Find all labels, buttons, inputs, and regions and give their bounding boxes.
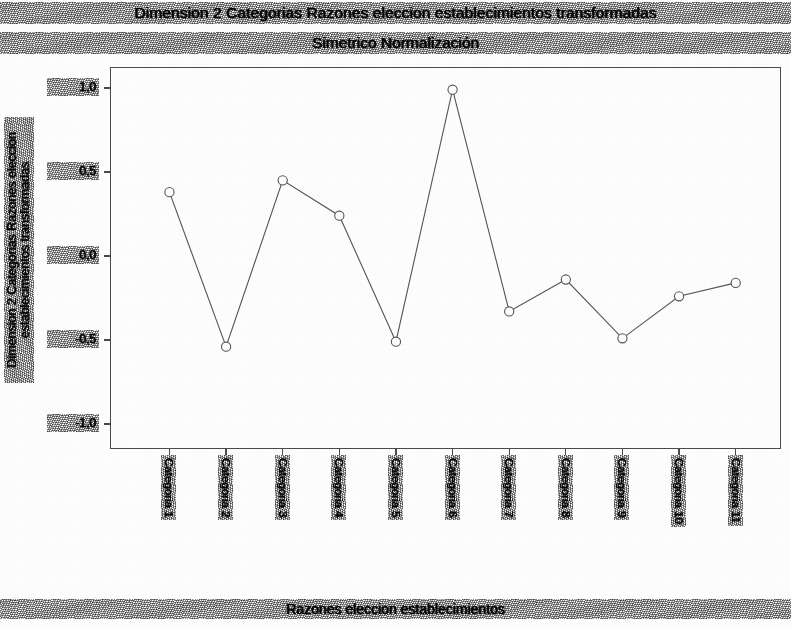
y-axis-tick-label: 1,0 [50,80,96,94]
data-point-marker [448,85,457,94]
data-point-marker [731,278,740,287]
y-axis-tick-label: -0,5 [50,332,96,346]
x-axis-tick-mark [509,448,510,455]
x-axis-tick-label: Categoria 2 [220,458,231,517]
x-axis-tick-label: Categoria 7 [503,458,514,517]
x-axis-tick-label: Categoria 10 [673,458,684,524]
x-axis-tick-mark [735,448,736,455]
y-axis-tick-label: 0,5 [50,164,96,178]
x-axis-tick-label: Categoria 1 [163,458,174,517]
data-point-marker [505,307,514,316]
x-axis-tick-mark [565,448,566,455]
x-axis-tick-mark [339,448,340,455]
data-point-marker [561,275,570,284]
x-axis-tick-mark [622,448,623,455]
data-point-marker [391,337,400,346]
x-axis-tick-label: Categoria 3 [277,458,288,517]
x-axis-tick-label: Categoria 5 [390,458,401,517]
chart-subtitle: Simetrico Normalización [0,34,791,52]
x-axis-tick-label: Categoria 11 [730,458,741,523]
data-point-marker [618,334,627,343]
y-axis-tick-label: 0,0 [50,248,96,262]
x-axis-tick-mark [225,448,226,455]
data-point-marker [335,211,344,220]
x-axis-tick-mark [395,448,396,455]
y-axis-tick-label: -1,0 [50,416,96,430]
x-axis-tick-mark [452,448,453,455]
x-axis-tick-label: Categoria 6 [447,458,458,517]
data-point-marker [165,188,174,197]
data-point-marker [674,292,683,301]
data-point-marker [278,176,287,185]
page-title: Dimension 2 Categorias Razones eleccion … [0,4,791,22]
x-axis-tick-mark [282,448,283,455]
y-axis-title: Dimension 2 Categorias Razones eleccion … [6,120,32,380]
line-chart-plot [110,67,781,449]
x-axis-tick-label: Categoria 9 [616,458,627,517]
x-axis-tick-label: Categoria 8 [560,458,571,517]
x-axis-tick-mark [169,448,170,455]
x-axis-tick-mark [678,448,679,455]
x-axis-tick-label: Categoria 4 [333,458,344,517]
data-point-markers [165,85,740,351]
data-series-line [169,90,735,347]
data-point-marker [221,342,230,351]
x-axis-title: Razones eleccion establecimientos [0,601,791,617]
